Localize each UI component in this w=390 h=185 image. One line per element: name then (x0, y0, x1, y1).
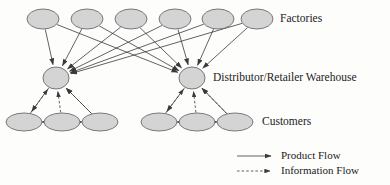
node-w1[interactable] (43, 67, 69, 89)
product-flow-edge (70, 25, 162, 71)
node-c4[interactable] (141, 113, 177, 131)
nodes-layer (6, 9, 273, 131)
product-flow-edge (202, 88, 227, 113)
node-f1[interactable] (27, 9, 59, 29)
product-flow-edge (203, 28, 248, 69)
information-flow-edge (58, 92, 61, 113)
product-flow-edge (198, 29, 214, 65)
node-f2[interactable] (71, 9, 103, 29)
node-f3[interactable] (115, 9, 147, 29)
legend-product-flow-label: Product Flow (281, 149, 341, 161)
information-flow-edge (194, 92, 196, 113)
diagram-canvas: Factories Distributor/Retailer Warehouse… (0, 0, 390, 185)
node-f6[interactable] (241, 9, 273, 29)
legend-information-flow-label: Information Flow (281, 164, 359, 176)
product-flow-edge (178, 29, 188, 64)
node-c3[interactable] (82, 113, 118, 131)
node-f4[interactable] (159, 9, 191, 29)
product-flow-edge (71, 23, 242, 73)
node-c6[interactable] (217, 113, 253, 131)
layer-label-warehouse: Distributor/Retailer Warehouse (213, 71, 357, 83)
node-c2[interactable] (44, 113, 80, 131)
node-w2[interactable] (179, 67, 205, 89)
product-flow-edge (140, 28, 182, 68)
node-f5[interactable] (202, 9, 234, 29)
product-flow-edge (57, 25, 178, 73)
layer-label-factories: Factories (280, 12, 323, 24)
layer-label-customers: Customers (262, 115, 312, 127)
legend: Product Flow Information Flow (237, 149, 359, 176)
product-flow-edge (45, 29, 53, 64)
product-flow-edge (66, 88, 91, 113)
product-flow-edge (99, 26, 179, 71)
node-c5[interactable] (179, 113, 215, 131)
supply-chain-diagram: Factories Distributor/Retailer Warehouse… (0, 0, 390, 185)
node-c1[interactable] (6, 113, 42, 131)
